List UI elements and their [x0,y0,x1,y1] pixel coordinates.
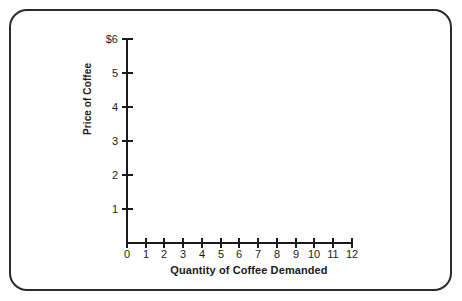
y-tick-label-2: 2 [78,170,118,181]
plot-region[interactable] [128,38,352,242]
x-tick-5 [220,238,222,248]
x-tick-2 [163,238,165,248]
x-tick-10 [313,238,315,248]
x-tick-label-12: 12 [340,249,364,260]
y-axis-title: Price of Coffee [84,0,95,31]
x-tick-0 [126,238,128,248]
x-tick-6 [238,238,240,248]
x-tick-4 [201,238,203,248]
coffee-demand-chart: $6 5 4 3 2 1 0 1 2 3 4 5 6 7 8 9 10 11 1… [0,0,462,301]
y-tick-label-3: 3 [78,136,118,147]
y-axis-title-text: Price of Coffee [82,25,93,135]
x-tick-11 [332,238,334,248]
x-tick-7 [257,238,259,248]
y-tick-3 [122,140,133,142]
y-tick-6 [122,38,133,40]
x-tick-9 [295,238,297,248]
x-axis-title: Quantity of Coffee Demanded [126,264,372,276]
x-tick-1 [145,238,147,248]
y-tick-label-1: 1 [78,204,118,215]
x-tick-3 [182,238,184,248]
y-tick-1 [122,208,133,210]
y-tick-2 [122,174,133,176]
y-tick-4 [122,106,133,108]
x-tick-8 [276,238,278,248]
y-tick-5 [122,72,133,74]
x-tick-12 [351,238,353,248]
